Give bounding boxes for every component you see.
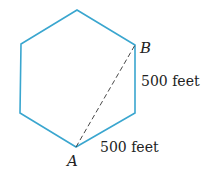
- right-side-length-label: 500 feet: [141, 73, 200, 89]
- dashed-segment-ab: [76, 45, 135, 147]
- hexagon-diagram: B A 500 feet 500 feet: [0, 0, 216, 176]
- bottom-side-length-label: 500 feet: [100, 139, 159, 155]
- point-b-label: B: [139, 39, 151, 57]
- point-a-label: A: [65, 152, 78, 170]
- hexagon: [20, 10, 135, 147]
